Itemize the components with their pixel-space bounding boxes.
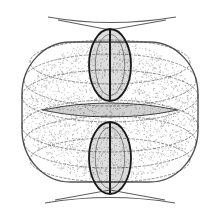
top-cusp [48,17,176,30]
attractor-image [0,0,220,218]
attractor-plot [0,0,220,218]
